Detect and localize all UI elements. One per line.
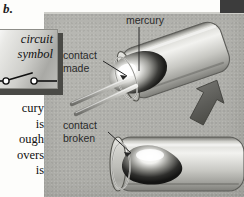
facing-page-edge xyxy=(220,0,244,13)
caption-line-2: is xyxy=(0,117,44,133)
inset-caption: circuit symbol xyxy=(0,32,57,62)
label-contact-made-line1: contact xyxy=(63,49,97,62)
label-contact-broken-line1: contact xyxy=(63,119,97,132)
page-top-margin xyxy=(0,0,220,12)
caption-line-1: cury xyxy=(0,101,44,117)
inset-caption-line2: symbol xyxy=(0,47,53,62)
open-switch-symbol-icon xyxy=(0,68,57,88)
caption-text-column: cury is ough overs is xyxy=(0,101,44,179)
label-contact-made-line2: made xyxy=(63,62,97,75)
label-mercury: mercury xyxy=(126,14,164,27)
label-contact-broken: contact broken xyxy=(63,119,97,144)
label-contact-broken-line2: broken xyxy=(63,132,97,145)
inset-face: circuit symbol xyxy=(0,29,58,89)
illustration-panel xyxy=(44,12,244,197)
circuit-symbol-inset: circuit symbol xyxy=(0,29,60,91)
figure-label: b. xyxy=(3,1,13,17)
panel-texture xyxy=(44,12,244,197)
label-contact-made: contact made xyxy=(63,49,97,74)
figure-root: mercury contact made contact broken circ… xyxy=(0,0,244,197)
caption-line-5: is xyxy=(0,163,44,179)
caption-line-3: ough xyxy=(0,132,44,148)
inset-caption-line1: circuit xyxy=(0,32,53,47)
caption-line-4: overs xyxy=(0,148,44,164)
